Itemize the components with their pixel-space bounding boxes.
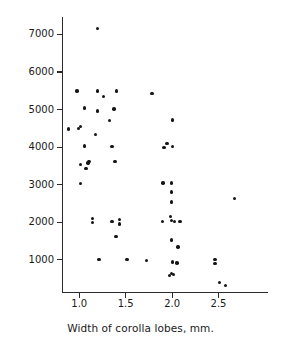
data-point [83,106,86,109]
data-point [125,258,128,261]
data-point [94,133,97,136]
data-point [115,89,118,92]
data-point [79,163,82,166]
data-point [102,95,105,98]
plot-area: 1000200030004000500060007000 1.01.52.02.… [62,17,268,293]
data-point [83,144,86,147]
data-point [96,89,99,92]
y-axis-tick: 4000 [57,147,62,148]
data-point [213,262,216,265]
x-axis-tick: 2.0 [172,293,173,298]
y-axis-tick: 7000 [57,34,62,35]
data-point [170,181,173,184]
y-axis-tick: 5000 [57,109,62,110]
y-axis-tick-label: 1000 [29,255,54,265]
data-point [118,222,121,225]
data-point [97,258,100,261]
data-point [112,107,115,110]
data-point [178,220,181,223]
y-axis-tick: 3000 [57,184,62,185]
data-point [169,215,172,218]
y-axis-tick: 2000 [57,222,62,223]
data-point [108,119,111,122]
data-point [75,89,78,92]
data-point [118,218,121,221]
data-point [79,125,82,128]
data-point [161,181,164,184]
data-point [224,284,227,287]
y-axis-line [62,17,63,293]
data-point [79,182,82,185]
data-point [218,281,221,284]
data-point [162,146,165,149]
y-axis-tick: 6000 [57,71,62,72]
data-point [84,167,87,170]
data-point [145,259,148,262]
data-point [173,220,176,223]
y-axis-tick-label: 3000 [29,180,54,190]
data-point [113,160,116,163]
data-point [87,160,90,163]
x-axis-tick-label: 1.5 [118,299,134,309]
y-axis-tick-label: 7000 [29,29,54,39]
x-axis-tick-label: 2.0 [164,299,180,309]
x-axis-tick: 1.0 [79,293,80,298]
x-axis-tick-label: 1.0 [71,299,87,309]
data-point [91,221,94,224]
data-point [213,258,216,261]
x-axis-tick: 2.5 [218,293,219,298]
data-point [96,109,99,112]
data-point [233,197,236,200]
y-axis-tick-label: 5000 [29,105,54,115]
data-point [110,145,113,148]
x-axis-line [62,292,268,293]
data-point [171,260,174,263]
data-point [110,220,113,223]
data-point [171,118,174,121]
y-axis-tick: 1000 [57,259,62,260]
y-axis-tick-label: 6000 [29,67,54,77]
data-point [91,217,94,220]
data-point [172,273,175,276]
y-axis-tick-label: 2000 [29,217,54,227]
data-point [114,235,117,238]
x-axis-tick-label: 2.5 [211,299,227,309]
data-point [161,220,164,223]
x-axis-title: Width of corolla lobes, mm. [0,322,281,334]
data-point [170,238,173,241]
data-point [176,245,179,248]
data-point [67,127,70,130]
y-axis-tick-label: 4000 [29,142,54,152]
data-point [170,200,173,203]
data-point [96,27,99,30]
data-point [171,145,174,148]
data-point [170,190,173,193]
data-point [150,92,153,95]
data-point [165,142,168,145]
scatter-plot-figure: Elevation, ft. 1000200030004000500060007… [0,0,281,353]
x-axis-tick: 1.5 [125,293,126,298]
data-point [175,261,178,264]
